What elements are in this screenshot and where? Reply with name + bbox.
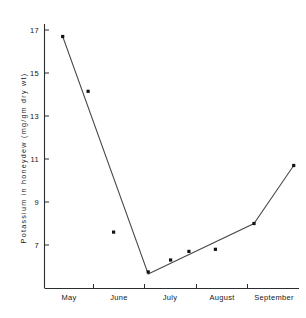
y-tick-label-15: 15: [30, 69, 39, 78]
data-point-1: [87, 90, 90, 93]
data-point-5: [187, 250, 190, 253]
y-tick-label-13: 13: [30, 112, 39, 121]
data-point-7: [252, 222, 255, 225]
x-tick-label-june: June: [110, 293, 127, 302]
x-tick-label-july: July: [163, 293, 178, 302]
data-point-6: [214, 248, 217, 251]
y-tick-label-9: 9: [35, 198, 39, 207]
x-tick-label-may: May: [61, 293, 76, 302]
x-tick-label-september: September: [254, 293, 294, 302]
data-point-4: [169, 258, 172, 261]
data-point-8: [292, 164, 295, 167]
y-tick-label-7: 7: [35, 241, 39, 250]
data-point-3: [147, 270, 150, 273]
y-tick-label-17: 17: [30, 26, 39, 35]
y-axis-title: Potassium in honeydew (mg/gm dry wt): [19, 73, 28, 244]
x-tick-label-august: August: [209, 293, 235, 302]
chart-svg: 17 15 13 11 9 7 May June July August Sep…: [0, 0, 306, 318]
data-point-2: [112, 231, 115, 234]
potassium-line-chart: 17 15 13 11 9 7 May June July August Sep…: [0, 0, 306, 318]
data-point-0: [61, 35, 64, 38]
y-tick-label-11: 11: [31, 155, 39, 164]
